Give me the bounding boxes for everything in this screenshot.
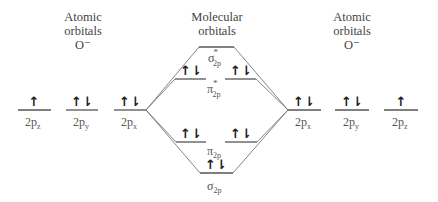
electrons-right-2px: ↑⇂: [293, 94, 315, 109]
label-pi: π2p: [207, 144, 221, 160]
label-sigma-star: σ*2p: [208, 47, 221, 68]
label-pi-star: π*2p: [207, 78, 221, 99]
label-left-2py: 2py: [73, 115, 89, 131]
electrons-pi-star-right: ↑⇂: [230, 63, 252, 78]
electrons-pi-star-left: ↑⇂: [180, 63, 202, 78]
mo-diagram: Atomic orbitals O⁻ Molecular orbitals At…: [0, 0, 438, 202]
label-left-2pz: 2pz: [25, 115, 41, 131]
electrons-left-2pz: ↑: [29, 94, 40, 109]
electrons-right-2pz: ↑: [396, 94, 407, 109]
electrons-right-2py: ↑⇂: [341, 94, 363, 109]
electrons-left-2px: ↑⇂: [119, 94, 141, 109]
electrons-pi-right: ↑⇂: [230, 126, 252, 141]
label-sigma: σ2p: [207, 179, 221, 195]
label-right-2pz: 2pz: [392, 115, 408, 131]
label-right-2px: 2px: [295, 115, 311, 131]
electrons-pi-left: ↑⇂: [180, 126, 202, 141]
electrons-left-2py: ↑⇂: [71, 94, 93, 109]
orbital-lines: ↑ ↑⇂ ↑⇂ ↑⇂ ↑⇂ ↑ ↑⇂ ↑⇂ ↑⇂ ↑⇂ ↑⇂ 2pz 2py 2…: [0, 0, 438, 202]
label-right-2py: 2py: [343, 115, 359, 131]
label-left-2px: 2px: [121, 115, 137, 131]
